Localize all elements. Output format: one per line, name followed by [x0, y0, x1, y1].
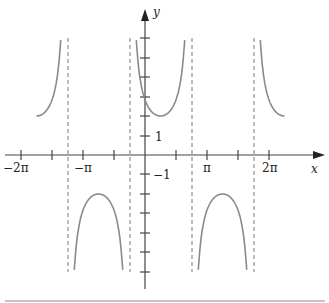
- x-axis-label: x: [311, 162, 318, 176]
- curve-branch: [136, 40, 184, 116]
- curve-branch: [198, 194, 246, 270]
- y-tick-label-neg-1: −1: [153, 168, 171, 182]
- y-axis: [140, 9, 150, 289]
- x-tick-label-neg-pi: −π: [74, 161, 92, 175]
- x-axis-arrow-icon: [313, 151, 325, 159]
- x-tick-label-2pi: 2π: [262, 161, 278, 175]
- x-axis: [5, 150, 325, 160]
- y-axis-label: y: [152, 5, 160, 19]
- curve-branch: [37, 40, 61, 116]
- x-tick-label-pi: π: [203, 161, 211, 175]
- x-tick-label-neg-2pi: −2π: [3, 161, 29, 175]
- curve-branch: [260, 40, 284, 116]
- curve-branch: [74, 194, 122, 270]
- y-axis-arrow-icon: [141, 9, 149, 21]
- y-tick-label-1: 1: [155, 130, 163, 144]
- secant-graph: −2π −π π 2π x y 1 −1: [0, 0, 329, 303]
